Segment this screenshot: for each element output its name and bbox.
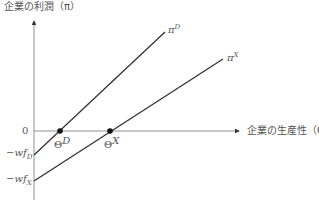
- y-axis-label: 企業の利潤（π）: [4, 2, 80, 12]
- theta-x-point: [107, 128, 113, 134]
- x-axis-label: 企業の生産性（Θ）: [247, 126, 319, 136]
- pi-x-label: πX: [227, 52, 239, 63]
- pi-x-line: [34, 59, 223, 181]
- wf-d-tick: −wfD: [6, 148, 32, 161]
- wf-x-tick: −wfX: [6, 174, 32, 187]
- theta-x-label: ΘX: [104, 136, 119, 150]
- chart-canvas: [0, 0, 319, 202]
- theta-d-point: [57, 128, 63, 134]
- theta-d-label: ΘD: [54, 136, 70, 150]
- pi-d-label: πD: [168, 24, 180, 35]
- zero-tick: 0: [22, 126, 28, 136]
